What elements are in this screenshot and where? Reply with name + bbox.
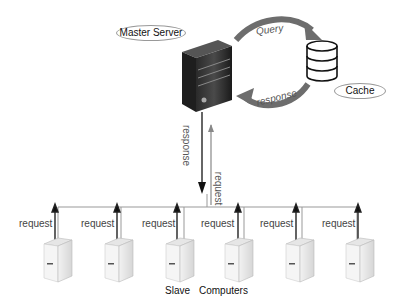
master-request-label: request xyxy=(213,172,224,205)
response-down-arrow-icon xyxy=(198,112,206,194)
slave-request-label-3: request xyxy=(142,218,175,229)
master-response-label: response xyxy=(181,125,192,166)
master-server-icon xyxy=(182,40,232,112)
slave-caption-right: Computers xyxy=(199,285,248,296)
database-icon xyxy=(307,41,337,81)
slave-caption-left: Slave xyxy=(165,285,190,296)
slave-computer-icon-2 xyxy=(105,238,133,282)
diagram-canvas xyxy=(0,0,402,305)
slave-request-label-6: request xyxy=(322,218,355,229)
slave-computer-icon-5 xyxy=(286,238,314,282)
cache-label: Cache xyxy=(334,83,386,99)
slave-request-label-1: request xyxy=(19,218,52,229)
slave-request-label-2: request xyxy=(81,218,114,229)
slave-computer-icon-1 xyxy=(44,238,72,282)
network-bus xyxy=(58,194,357,240)
slave-request-label-5: request xyxy=(260,218,293,229)
slave-computer-icon-4 xyxy=(225,238,253,282)
slave-computer-icon-6 xyxy=(346,238,374,282)
master-server-label: Master Server xyxy=(116,25,186,41)
slave-request-label-4: request xyxy=(201,218,234,229)
slave-computer-icon-3 xyxy=(166,238,194,282)
